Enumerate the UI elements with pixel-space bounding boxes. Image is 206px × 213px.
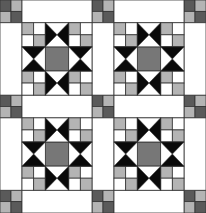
block-corner-square	[126, 35, 138, 47]
cornerstone-square	[92, 0, 103, 11]
cornerstone-square	[184, 107, 195, 118]
star-center-square	[137, 47, 160, 71]
block-corner-square	[114, 118, 126, 130]
block-corner-square	[126, 166, 138, 178]
block-corner-square	[80, 178, 92, 190]
sashing-strip	[22, 0, 92, 23]
block-corner-square	[34, 71, 46, 83]
block-corner-square	[161, 71, 173, 83]
block-corner-square	[161, 130, 173, 142]
sashing-strip	[184, 23, 206, 95]
sashing-strip	[92, 23, 114, 95]
block-corner-square	[126, 23, 138, 35]
sashing-strip	[22, 95, 92, 118]
block-corner-square	[22, 35, 34, 47]
block-corner-square	[172, 166, 184, 178]
block-corner-square	[22, 23, 34, 35]
cornerstone-square	[103, 202, 114, 213]
block-corner-square	[161, 23, 173, 35]
block-corner-square	[172, 71, 184, 83]
sashing-strip	[114, 190, 184, 213]
star-center-square	[45, 47, 68, 71]
block-corner-square	[80, 130, 92, 142]
cornerstone-square	[195, 95, 206, 106]
cornerstone-square	[92, 11, 103, 22]
star-center-square	[45, 142, 68, 166]
block-corner-square	[69, 130, 81, 142]
block-corner-square	[22, 71, 34, 83]
block-corner-square	[161, 83, 173, 95]
block-corner-square	[172, 35, 184, 47]
sashing-strip	[0, 118, 22, 190]
block-corner-square	[69, 71, 81, 83]
block-corner-square	[69, 178, 81, 190]
block-corner-square	[22, 118, 34, 130]
block-corner-square	[69, 23, 81, 35]
sashing-strip	[114, 0, 184, 23]
cornerstone-square	[92, 202, 103, 213]
block-corner-square	[69, 118, 81, 130]
block-corner-square	[114, 23, 126, 35]
cornerstone-square	[195, 202, 206, 213]
cornerstone-square	[195, 190, 206, 201]
block-corner-square	[114, 166, 126, 178]
block-corner-square	[161, 178, 173, 190]
block-corner-square	[114, 178, 126, 190]
cornerstone-square	[0, 190, 11, 201]
block-corner-square	[80, 71, 92, 83]
block-corner-square	[172, 83, 184, 95]
cornerstone-square	[11, 190, 22, 201]
block-corner-square	[34, 118, 46, 130]
block-corner-square	[126, 130, 138, 142]
block-corner-square	[114, 35, 126, 47]
cornerstone-square	[184, 95, 195, 106]
block-corner-square	[126, 118, 138, 130]
cornerstone-square	[11, 0, 22, 11]
block-corner-square	[80, 166, 92, 178]
cornerstone-square	[0, 0, 11, 11]
block-corner-square	[80, 35, 92, 47]
cornerstone-square	[0, 107, 11, 118]
sashing-strip	[22, 190, 92, 213]
sashing-strip	[0, 23, 22, 95]
block-corner-square	[161, 166, 173, 178]
block-corner-square	[126, 71, 138, 83]
cornerstone-square	[103, 107, 114, 118]
block-corner-square	[172, 178, 184, 190]
quilt-pattern	[0, 0, 206, 213]
cornerstone-square	[184, 202, 195, 213]
block-corner-square	[22, 178, 34, 190]
block-corner-square	[22, 166, 34, 178]
cornerstone-square	[195, 0, 206, 11]
sashing-strip	[92, 118, 114, 190]
cornerstone-square	[92, 95, 103, 106]
star-center-square	[137, 142, 160, 166]
block-corner-square	[80, 83, 92, 95]
cornerstone-square	[103, 190, 114, 201]
block-corner-square	[126, 178, 138, 190]
block-corner-square	[22, 130, 34, 142]
cornerstone-square	[11, 95, 22, 106]
block-corner-square	[161, 118, 173, 130]
block-corner-square	[172, 23, 184, 35]
block-corner-square	[34, 166, 46, 178]
block-corner-square	[114, 83, 126, 95]
cornerstone-square	[103, 95, 114, 106]
cornerstone-square	[11, 202, 22, 213]
block-corner-square	[172, 130, 184, 142]
block-corner-square	[172, 118, 184, 130]
cornerstone-square	[184, 190, 195, 201]
block-corner-square	[114, 71, 126, 83]
block-corner-square	[34, 178, 46, 190]
block-corner-square	[69, 35, 81, 47]
sashing-strip	[114, 95, 184, 118]
cornerstone-square	[103, 11, 114, 22]
block-corner-square	[22, 83, 34, 95]
block-corner-square	[114, 130, 126, 142]
cornerstone-square	[0, 202, 11, 213]
block-corner-square	[80, 23, 92, 35]
block-corner-square	[69, 166, 81, 178]
block-corner-square	[126, 83, 138, 95]
cornerstone-square	[11, 11, 22, 22]
block-corner-square	[161, 35, 173, 47]
